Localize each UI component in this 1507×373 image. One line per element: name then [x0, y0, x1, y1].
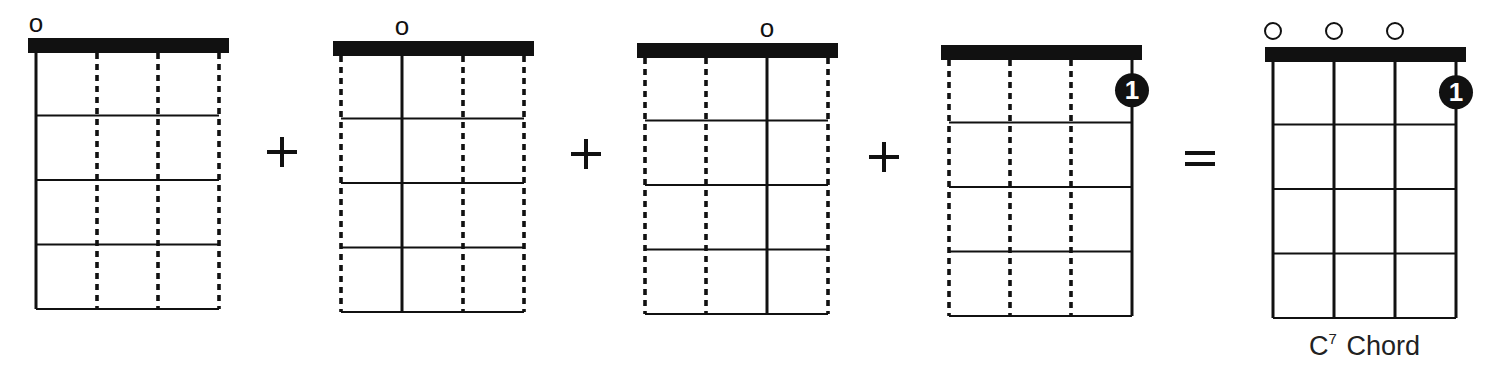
nut-bar	[1265, 47, 1466, 62]
finger-number: 1	[1125, 75, 1139, 105]
chord-extension: 7	[1329, 330, 1337, 347]
nut-bar	[637, 43, 838, 58]
open-string-marker: o	[760, 13, 774, 43]
chord-diagram-3: o	[637, 13, 838, 314]
chord-name-label: C7 Chord	[1309, 330, 1420, 362]
chord-diagrams-canvas: ooo11	[0, 0, 1507, 373]
open-string-marker: o	[395, 11, 409, 41]
plus-operator-icon	[571, 139, 601, 169]
open-string-circle-icon	[1326, 23, 1342, 39]
nut-bar	[28, 38, 229, 53]
open-string-circle-icon	[1265, 23, 1281, 39]
equals-operator-icon	[1185, 153, 1215, 164]
plus-operator-icon	[869, 142, 899, 172]
chord-suffix: Chord	[1346, 331, 1420, 361]
nut-bar	[333, 41, 534, 56]
chord-root: C	[1309, 331, 1329, 361]
open-string-marker: o	[29, 8, 43, 38]
finger-number: 1	[1449, 77, 1463, 107]
chord-diagram-2: o	[333, 11, 534, 312]
chord-diagram-5: 1	[1265, 23, 1473, 318]
chord-diagram-1: o	[28, 8, 229, 309]
plus-operator-icon	[267, 137, 297, 167]
chord-construction-figure: ooo11 C7 Chord	[0, 0, 1507, 373]
nut-bar	[941, 45, 1142, 60]
chord-diagram-4: 1	[941, 45, 1149, 316]
open-string-circle-icon	[1387, 23, 1403, 39]
